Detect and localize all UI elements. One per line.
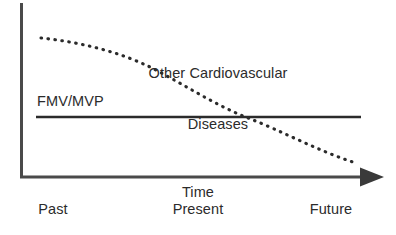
x-axis-tick-label-present: Present xyxy=(153,201,243,218)
series-label-line-1: Other Cardiovascular xyxy=(143,65,293,82)
x-axis-arrow-icon xyxy=(360,168,384,187)
series-label-line-2: Diseases xyxy=(143,116,293,133)
x-axis-tick-label-past: Past xyxy=(23,201,83,218)
chart-figure: Other Cardiovascular Diseases FMV/MVP Ti… xyxy=(0,0,396,235)
series-label-fmv-mvp: FMV/MVP xyxy=(37,93,104,110)
x-axis-tick-label-future: Future xyxy=(300,201,362,218)
x-axis-title: Time xyxy=(158,184,238,201)
series-label-other-cardiovascular-diseases: Other Cardiovascular Diseases xyxy=(143,31,293,167)
